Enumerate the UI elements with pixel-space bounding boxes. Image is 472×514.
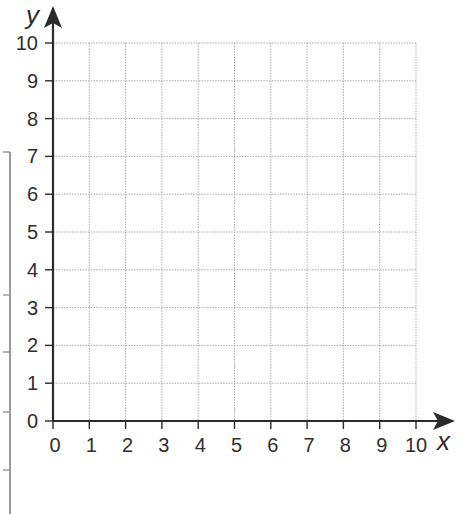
y-tick-label: 3 bbox=[27, 297, 38, 319]
x-tick-label: 1 bbox=[86, 434, 97, 456]
x-tick-label: 8 bbox=[340, 434, 351, 456]
y-tick-label: 1 bbox=[27, 372, 38, 394]
y-axis-ticks bbox=[45, 43, 53, 421]
y-tick-label: 10 bbox=[16, 32, 38, 54]
y-tick-label: 6 bbox=[27, 183, 38, 205]
y-axis-tick-labels: 012345678910 bbox=[16, 32, 38, 432]
x-tick-label: 9 bbox=[376, 434, 387, 456]
y-tick-label: 8 bbox=[27, 108, 38, 130]
x-tick-label: 6 bbox=[267, 434, 278, 456]
x-axis-title: x bbox=[435, 426, 451, 456]
y-tick-label: 9 bbox=[27, 70, 38, 92]
x-tick-label: 3 bbox=[158, 434, 169, 456]
page-edge-border bbox=[3, 152, 10, 514]
x-axis-tick-labels: 012345678910 bbox=[49, 434, 427, 456]
x-tick-label: 10 bbox=[405, 434, 427, 456]
y-axis-title: y bbox=[24, 0, 41, 30]
y-tick-label: 4 bbox=[27, 259, 38, 281]
y-tick-label: 2 bbox=[27, 334, 38, 356]
x-tick-label: 4 bbox=[195, 434, 206, 456]
y-tick-label: 7 bbox=[27, 145, 38, 167]
x-tick-label: 7 bbox=[304, 434, 315, 456]
x-tick-label: 5 bbox=[231, 434, 242, 456]
x-tick-label: 2 bbox=[122, 434, 133, 456]
x-tick-label: 0 bbox=[49, 434, 60, 456]
y-tick-label: 0 bbox=[27, 410, 38, 432]
x-axis-ticks bbox=[53, 421, 416, 429]
y-tick-label: 5 bbox=[27, 221, 38, 243]
coordinate-grid-chart: 012345678910 012345678910 x y bbox=[0, 0, 472, 514]
